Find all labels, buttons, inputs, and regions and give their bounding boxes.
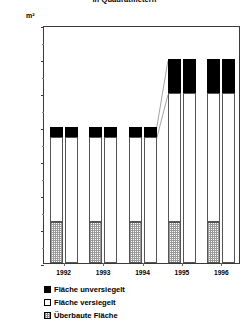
bar-outline-column	[144, 25, 157, 263]
bar-segment-stack	[129, 25, 142, 263]
legend-label-ueberbaute: Überbaute Fläche	[54, 311, 118, 320]
bar-segment-stack	[168, 25, 181, 263]
bar-outline-column	[222, 25, 235, 263]
legend-item-versiegelt: Fläche versiegelt	[44, 296, 244, 309]
connector-line-mid	[157, 95, 168, 139]
bar-seg-versiegelt	[50, 137, 63, 222]
x-tick-label: 1996	[214, 269, 229, 276]
bar-seg-unversiegelt-right	[65, 127, 78, 137]
y-tick-mark	[41, 129, 44, 130]
bar-seg-unversiegelt	[129, 127, 142, 137]
legend-item-ueberbaute: Überbaute Fläche	[44, 309, 244, 322]
bar-outline-column	[104, 25, 117, 263]
y-tick-mark	[41, 231, 44, 232]
y-tick-mark	[41, 265, 44, 266]
bar-seg-unversiegelt-right	[144, 127, 157, 137]
y-tick-mark	[41, 61, 44, 62]
bar-segment-stack	[50, 25, 63, 263]
legend-swatch-white-icon	[44, 299, 51, 306]
bar-seg-ueberbaute	[207, 222, 220, 263]
bar-outline-column	[65, 25, 78, 263]
chart-legend: Fläche unversiegelt Fläche versiegelt Üb…	[44, 283, 244, 322]
bar-seg-versiegelt-right	[222, 93, 235, 263]
bar-seg-versiegelt-right	[65, 137, 78, 263]
y-tick-minor-mark	[42, 214, 44, 215]
bar-seg-unversiegelt	[89, 127, 102, 137]
x-tick-mark	[103, 263, 104, 266]
y-tick-minor-mark	[42, 248, 44, 249]
bar-seg-versiegelt	[129, 137, 142, 222]
x-tick-mark	[182, 263, 183, 266]
bar-seg-unversiegelt	[207, 59, 220, 93]
legend-label-versiegelt: Fläche versiegelt	[54, 298, 116, 307]
x-tick-label: 1995	[175, 269, 190, 276]
legend-swatch-hatch-icon	[44, 312, 51, 319]
y-tick-minor-mark	[42, 112, 44, 113]
y-tick-minor-mark	[42, 146, 44, 147]
x-tick-mark	[64, 263, 65, 266]
x-tick-mark	[221, 263, 222, 266]
bar-segment-stack	[207, 25, 220, 263]
bar-seg-unversiegelt-right	[104, 127, 117, 137]
y-tick-minor-mark	[42, 44, 44, 45]
legend-item-unversiegelt: Fläche unversiegelt	[44, 283, 244, 296]
bar-seg-versiegelt	[89, 137, 102, 222]
y-tick-mark	[41, 95, 44, 96]
bar-seg-unversiegelt	[50, 127, 63, 137]
chart-container: in Quadratmetern m² 02000040000600008000…	[0, 0, 249, 327]
bar-seg-unversiegelt	[168, 59, 181, 93]
x-tick-label: 1994	[135, 269, 150, 276]
bar-outline-column	[183, 25, 196, 263]
bar-seg-ueberbaute	[50, 222, 63, 263]
bar-segment-stack	[89, 25, 102, 263]
y-axis-unit-label: m²	[26, 12, 35, 19]
y-tick-minor-mark	[42, 180, 44, 181]
bar-seg-ueberbaute	[89, 222, 102, 263]
bar-seg-versiegelt-right	[144, 137, 157, 263]
y-tick-mark	[41, 163, 44, 164]
x-tick-label: 1993	[96, 269, 111, 276]
connector-line-top	[157, 61, 168, 129]
bar-seg-unversiegelt-right	[183, 59, 196, 93]
legend-label-unversiegelt: Fläche unversiegelt	[54, 285, 125, 294]
y-tick-mark	[41, 197, 44, 198]
bar-seg-ueberbaute	[129, 222, 142, 263]
bar-seg-versiegelt-right	[183, 93, 196, 263]
legend-swatch-black-icon	[44, 286, 51, 293]
x-tick-mark	[143, 263, 144, 266]
bar-seg-versiegelt	[168, 93, 181, 222]
chart-title: in Quadratmetern	[0, 0, 249, 4]
y-tick-minor-mark	[42, 78, 44, 79]
x-tick-label: 1992	[56, 269, 71, 276]
bar-seg-ueberbaute	[168, 222, 181, 263]
bar-seg-versiegelt-right	[104, 137, 117, 263]
bar-seg-versiegelt	[207, 93, 220, 222]
y-tick-mark	[41, 27, 44, 28]
bar-seg-unversiegelt-right	[222, 59, 235, 93]
plot-area: 020000400006000080000100000120000140000 …	[43, 26, 240, 264]
